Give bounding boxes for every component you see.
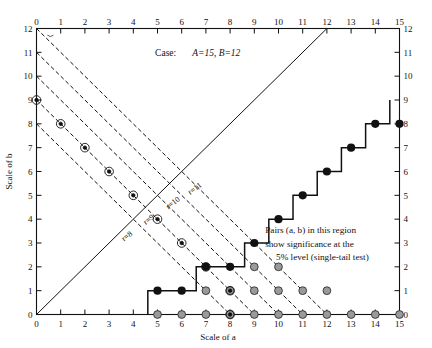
y-tick-label-left: 5 <box>28 191 33 201</box>
sample-point-core <box>35 98 38 101</box>
x-tick-label-bottom: 7 <box>204 319 209 329</box>
x-tick-label-bottom: 12 <box>322 319 331 329</box>
x-tick-label-top: 6 <box>179 17 184 27</box>
y-tick-label-left: 1 <box>28 286 33 296</box>
sample-point-core <box>107 170 110 173</box>
x-tick-label-bottom: 4 <box>131 319 136 329</box>
y-tick-label-right: 6 <box>404 167 409 177</box>
x-tick-label-top: 5 <box>155 17 160 27</box>
y-tick-label-right: 11 <box>404 48 413 58</box>
identity-diagonal <box>37 29 327 315</box>
y-tick-label-right: 10 <box>404 71 414 81</box>
plot-frame <box>37 29 400 315</box>
case-label: Case:A=15, B=12 <box>155 48 241 58</box>
nonsignificant-point <box>275 311 283 319</box>
y-tick-label-right: 7 <box>404 143 409 153</box>
x-tick-label-top: 2 <box>83 17 88 27</box>
significant-point <box>250 239 258 247</box>
x-tick-label-top: 12 <box>322 17 331 27</box>
x-tick-label-top: 3 <box>107 17 112 27</box>
case-label-values: A=15, B=12 <box>191 48 240 58</box>
significant-point <box>226 263 234 271</box>
x-tick-label-top: 4 <box>131 17 136 27</box>
nonsignificant-point <box>275 287 283 295</box>
nonsignificant-point <box>396 311 404 319</box>
y-tick-label-right: 3 <box>404 238 409 248</box>
y-tick-label-right: 12 <box>404 24 413 34</box>
squiggle-mark <box>47 35 53 36</box>
nonsignificant-point <box>250 311 258 319</box>
significant-point <box>153 287 161 295</box>
x-tick-label-bottom: 1 <box>58 319 63 329</box>
x-tick-label-bottom: 9 <box>252 319 257 329</box>
y-tick-label-left: 11 <box>24 48 33 58</box>
x-axis-label: Scale of a <box>200 332 235 342</box>
nonsignificant-point <box>323 287 331 295</box>
y-tick-label-right: 4 <box>404 214 409 224</box>
y-axis-label: Scale of b <box>4 153 14 189</box>
x-tick-label-bottom: 3 <box>107 319 112 329</box>
x-tick-label-bottom: 11 <box>298 319 307 329</box>
y-tick-label-right: 8 <box>404 119 409 129</box>
sample-point-core <box>59 122 62 125</box>
y-tick-label-left: 2 <box>28 262 33 272</box>
y-tick-label-right: 9 <box>404 95 409 105</box>
x-tick-label-bottom: 10 <box>274 319 284 329</box>
x-tick-label-bottom: 2 <box>83 319 88 329</box>
significance-boundary-staircase <box>148 100 390 315</box>
significant-point <box>274 215 282 223</box>
y-tick-label-right: 0 <box>404 310 409 320</box>
x-tick-label-bottom: 15 <box>395 319 405 329</box>
significant-point <box>371 120 379 128</box>
region-note-line-3: 5% level (single-tail test) <box>276 252 369 262</box>
nonsignificant-point <box>347 311 355 319</box>
x-tick-label-bottom: 5 <box>155 319 160 329</box>
region-note-line-2: show significance at the <box>265 239 354 249</box>
y-tick-label-left: 6 <box>28 167 33 177</box>
sample-point-core <box>204 265 207 268</box>
nonsignificant-point <box>275 263 283 271</box>
x-tick-label-top: 10 <box>274 17 284 27</box>
nonsignificant-point <box>299 287 307 295</box>
sample-point-core <box>132 194 135 197</box>
sample-point-core <box>156 217 159 220</box>
nonsignificant-point <box>371 311 379 319</box>
statistical-significance-chart: 0011223344556677889910101111121213131414… <box>0 0 432 348</box>
x-tick-label-top: 7 <box>204 17 209 27</box>
nonsignificant-point <box>299 311 307 319</box>
x-tick-label-top: 1 <box>58 17 63 27</box>
nonsignificant-point <box>250 287 258 295</box>
case-label-prefix: Case: <box>155 48 176 58</box>
y-tick-label-left: 0 <box>28 310 33 320</box>
y-tick-label-left: 7 <box>28 143 33 153</box>
y-tick-label-left: 8 <box>28 119 33 129</box>
figure-canvas: 0011223344556677889910101111121213131414… <box>0 0 432 348</box>
sample-point-core <box>83 146 86 149</box>
y-tick-label-right: 2 <box>404 262 409 272</box>
sample-point-core <box>228 313 231 316</box>
significant-point <box>323 167 331 175</box>
significant-point <box>299 191 307 199</box>
nonsignificant-point <box>202 311 210 319</box>
x-tick-label-top: 13 <box>347 17 357 27</box>
nonsignificant-point <box>250 263 258 271</box>
annotation-r8: r=8 <box>120 229 134 243</box>
annotation-r9: r=9 <box>142 213 156 227</box>
nonsignificant-point <box>178 311 186 319</box>
x-tick-label-top: 11 <box>298 17 307 27</box>
x-tick-label-bottom: 14 <box>371 319 381 329</box>
nonsignificant-point <box>202 287 210 295</box>
significant-point <box>395 120 403 128</box>
significant-point <box>178 287 186 295</box>
y-tick-label-left: 10 <box>24 71 34 81</box>
y-tick-label-left: 12 <box>24 24 33 34</box>
nonsignificant-point <box>323 311 331 319</box>
y-tick-label-left: 4 <box>28 214 33 224</box>
annotation-r11: r=11 <box>186 180 203 196</box>
region-note-line-1: Pairs (a, b) in this region <box>265 225 356 235</box>
annotation-r10: r=10 <box>164 195 182 211</box>
x-tick-label-top: 14 <box>371 17 381 27</box>
x-tick-label-bottom: 6 <box>179 319 184 329</box>
x-tick-label-top: 8 <box>228 17 233 27</box>
x-tick-label-bottom: 8 <box>228 319 233 329</box>
